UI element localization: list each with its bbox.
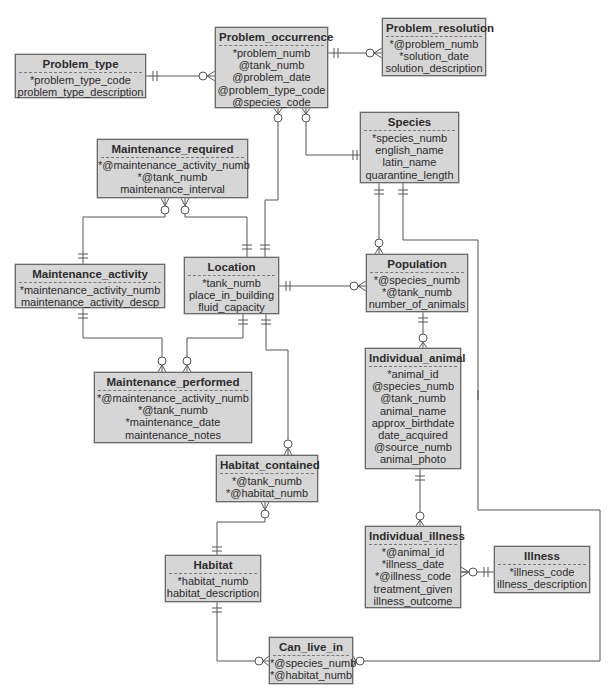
- entity-attribute: english_name: [361, 144, 458, 156]
- entity-attribute: date_acquired: [366, 429, 460, 441]
- entity-attribute: *@habitat_numb: [270, 669, 352, 681]
- entity-attribute: animal_photo: [366, 453, 460, 465]
- rel-activity-required: [83, 208, 165, 264]
- entity-attribute: approx_birthdate: [366, 417, 460, 429]
- entity-attribute: *maintenance_activity_numb: [16, 284, 164, 296]
- entity-attribute: place_in_building: [185, 289, 278, 301]
- entity-attribute: illness_outcome: [366, 595, 460, 607]
- entity-title: Problem_type: [19, 55, 142, 73]
- entity-species: Species *species_numb english_name latin…: [360, 112, 459, 183]
- entity-attribute: *@tank_numb: [367, 286, 467, 298]
- entity-maintenance-required: Maintenance_required *@maintenance_activ…: [97, 139, 248, 198]
- entity-attribute: @species_code: [216, 96, 327, 108]
- entity-title: Population: [370, 255, 464, 273]
- er-diagram-canvas: Problem_type *problem_type_code problem_…: [0, 0, 616, 698]
- entity-attribute: solution_description: [383, 62, 485, 74]
- entity-title: Location: [188, 258, 275, 276]
- rel-location-performed: [187, 314, 243, 362]
- entity-attribute: *solution_date: [383, 50, 485, 62]
- entity-title: Problem_occurrence: [219, 28, 324, 46]
- entity-attribute: problem_type_description: [16, 86, 145, 98]
- entity-attribute: *@illness_code: [366, 570, 460, 582]
- entity-attribute: *problem_numb: [216, 47, 327, 59]
- entity-title: Illness: [498, 547, 586, 565]
- entity-attribute: *@maintenance_activity_numb: [98, 159, 247, 171]
- rel-location-required: [185, 208, 247, 257]
- entity-attribute: illness_description: [495, 578, 589, 590]
- entity-title: Individual_animal: [369, 349, 457, 367]
- entity-attribute: *illness_date: [366, 558, 460, 570]
- entity-attribute: *@species_numb: [270, 657, 352, 669]
- entity-attribute: @problem_type_code: [216, 84, 327, 96]
- entity-attribute: *illness_code: [495, 566, 589, 578]
- entity-attribute: *species_numb: [361, 132, 458, 144]
- entity-title: Can_live_in: [273, 638, 349, 656]
- entity-title: Species: [364, 113, 455, 131]
- entity-attribute: *maintenance_date: [95, 416, 251, 428]
- entity-habitat-contained: Habitat_contained *@tank_numb *@habitat_…: [216, 455, 318, 502]
- rel-activity-performed: [83, 308, 162, 362]
- entity-attribute: @species_numb: [366, 380, 460, 392]
- entity-attribute: animal_name: [366, 405, 460, 417]
- entity-title: Maintenance_activity: [19, 265, 161, 283]
- entity-title: Problem_resolution: [386, 19, 482, 37]
- entity-attribute: *@maintenance_activity_numb: [95, 392, 251, 404]
- rel-habitat-canlivein: [217, 602, 263, 661]
- rel-habitat-habitatcontained: [217, 513, 265, 555]
- entity-attribute: *@species_numb: [367, 274, 467, 286]
- entity-title: Maintenance_performed: [98, 373, 248, 391]
- entity-attribute: *@tank_numb: [98, 171, 247, 183]
- entity-attribute: *@tank_numb: [95, 404, 251, 416]
- entity-attribute: *animal_id: [366, 368, 460, 380]
- entity-problem-type: Problem_type *problem_type_code problem_…: [15, 54, 146, 98]
- entity-individual-illness: Individual_illness *@animal_id *illness_…: [365, 526, 461, 608]
- entity-maintenance-activity: Maintenance_activity *maintenance_activi…: [15, 264, 165, 308]
- entity-attribute: *problem_type_code: [16, 74, 145, 86]
- entity-title: Habitat: [169, 556, 257, 574]
- entity-attribute: @tank_numb: [216, 59, 327, 71]
- entity-attribute: *@problem_numb: [383, 38, 485, 50]
- entity-attribute: maintenance_notes: [95, 429, 251, 441]
- entity-location: Location *tank_numb place_in_building fl…: [184, 257, 279, 314]
- entity-title: Individual_illness: [369, 527, 457, 545]
- entity-attribute: *tank_numb: [185, 277, 278, 289]
- entity-attribute: number_of_animals: [367, 298, 467, 310]
- entity-attribute: *@tank_numb: [217, 475, 317, 487]
- entity-population: Population *@species_numb *@tank_numb nu…: [366, 254, 468, 312]
- entity-attribute: treatment_given: [366, 583, 460, 595]
- rel-location-habitatcontained: [266, 314, 288, 444]
- entity-attribute: fluid_capacity: [185, 301, 278, 313]
- entity-attribute: maintenance_interval: [98, 183, 247, 195]
- rel-location-occurrence: [265, 120, 278, 257]
- entity-can-live-in: Can_live_in *@species_numb *@habitat_num…: [269, 637, 353, 684]
- entity-attribute: @tank_numb: [366, 392, 460, 404]
- entity-attribute: *@animal_id: [366, 546, 460, 558]
- entity-attribute: quarantine_length: [361, 169, 458, 181]
- entity-title: Maintenance_required: [101, 140, 244, 158]
- entity-attribute: *@habitat_numb: [217, 487, 317, 499]
- entity-title: Habitat_contained: [220, 456, 314, 474]
- entity-illness: Illness *illness_code illness_descriptio…: [494, 546, 590, 593]
- entity-attribute: maintenance_activity_descp: [16, 296, 164, 308]
- entity-attribute: @problem_date: [216, 71, 327, 83]
- entity-attribute: latin_name: [361, 156, 458, 168]
- entity-habitat: Habitat *habitat_numb habitat_descriptio…: [165, 555, 261, 602]
- rel-species-occurrence: [306, 120, 360, 155]
- entity-attribute: *habitat_numb: [166, 575, 260, 587]
- entity-attribute: @source_numb: [366, 441, 460, 453]
- entity-attribute: habitat_description: [166, 587, 260, 599]
- entity-problem-occurrence: Problem_occurrence *problem_numb @tank_n…: [215, 27, 328, 108]
- entity-maintenance-performed: Maintenance_performed *@maintenance_acti…: [94, 372, 252, 443]
- entity-problem-resolution: Problem_resolution *@problem_numb *solut…: [382, 18, 486, 76]
- entity-individual-animal: Individual_animal *animal_id @species_nu…: [365, 348, 461, 469]
